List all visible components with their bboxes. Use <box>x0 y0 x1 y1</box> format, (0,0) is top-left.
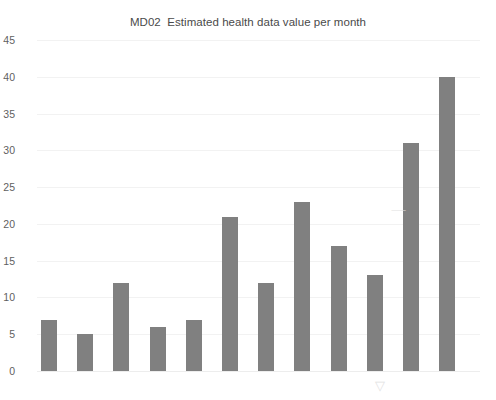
y-axis-tick-label: 40 <box>0 72 15 82</box>
gridline <box>37 40 480 41</box>
gridline <box>37 371 480 372</box>
y-axis-tick-label: 45 <box>0 35 15 45</box>
plot-area: 051015202530354045 010203040507010020050… <box>37 40 480 371</box>
y-axis-tick-label: 0 <box>0 366 15 376</box>
bar <box>367 275 383 371</box>
bar <box>258 283 274 371</box>
y-axis-tick-label: 10 <box>0 292 15 302</box>
gridline <box>37 114 480 115</box>
scan-artifact-icon: ▽ <box>375 378 385 393</box>
bar <box>439 77 455 371</box>
bar <box>150 327 166 371</box>
bar <box>331 246 347 371</box>
bar <box>403 143 419 371</box>
y-axis-tick-label: 5 <box>0 329 15 339</box>
bar <box>294 202 310 371</box>
bar <box>77 334 93 371</box>
chart-title: MD02 Estimated health data value per mon… <box>0 16 496 28</box>
bar <box>186 320 202 371</box>
bar <box>113 283 129 371</box>
bar <box>41 320 57 371</box>
y-axis-tick-label: 25 <box>0 182 15 192</box>
y-axis-tick-label: 15 <box>0 256 15 266</box>
y-axis-tick-label: 35 <box>0 109 15 119</box>
y-axis-tick-label: 30 <box>0 145 15 155</box>
bar <box>222 217 238 371</box>
y-axis-tick-label: 20 <box>0 219 15 229</box>
gridline <box>37 77 480 78</box>
bar-chart: MD02 Estimated health data value per mon… <box>0 0 496 400</box>
